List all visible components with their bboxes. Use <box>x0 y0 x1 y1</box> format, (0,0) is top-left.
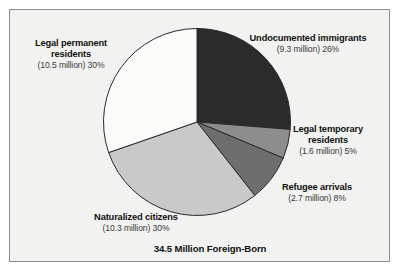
slice-label-title: Refugee arrivals <box>248 182 386 193</box>
slice-label-title: Naturalized citizens <box>56 212 216 223</box>
slice-label-value: (9.3 million) 26% <box>228 44 388 54</box>
slice-label-value: (1.6 million) 5% <box>268 146 388 156</box>
slice-label-value: (2.7 million) 8% <box>248 193 386 203</box>
slice-label-title: Undocumented immigrants <box>228 33 388 44</box>
slice-label-title-line2: residents <box>12 49 130 60</box>
slice-label-value: (10.5 million) 30% <box>12 60 130 70</box>
slice-label-undocumented-immigrants: Undocumented immigrants (9.3 million) 26… <box>228 33 388 54</box>
slice-label-legal-temporary-residents: Legal temporary residents (1.6 million) … <box>268 124 388 156</box>
pie-chart-figure: Legal permanent residents (10.5 million)… <box>0 0 404 274</box>
slice-label-title: Legal permanent <box>12 38 130 49</box>
slice-label-title-line2: residents <box>268 135 388 146</box>
slice-label-title: Legal temporary <box>268 124 388 135</box>
slice-label-legal-permanent-residents: Legal permanent residents (10.5 million)… <box>12 38 130 70</box>
slice-label-refugee-arrivals: Refugee arrivals (2.7 million) 8% <box>248 182 386 203</box>
slice-label-naturalized-citizens: Naturalized citizens (10.3 million) 30% <box>56 212 216 233</box>
chart-title: 34.5 Million Foreign-Born <box>100 243 320 254</box>
slice-label-value: (10.3 million) 30% <box>56 223 216 233</box>
